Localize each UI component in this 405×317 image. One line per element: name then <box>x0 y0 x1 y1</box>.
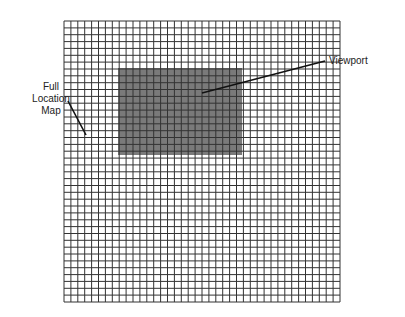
viewport-rect <box>118 68 242 155</box>
grid-lines <box>64 21 340 302</box>
label-line: Map <box>26 105 76 117</box>
location-map-diagram <box>0 0 405 317</box>
label-line: Location <box>26 93 76 105</box>
viewport-label: Viewport <box>329 55 368 67</box>
full-location-map-label: Full Location Map <box>26 81 76 117</box>
label-line: Full <box>26 81 76 93</box>
